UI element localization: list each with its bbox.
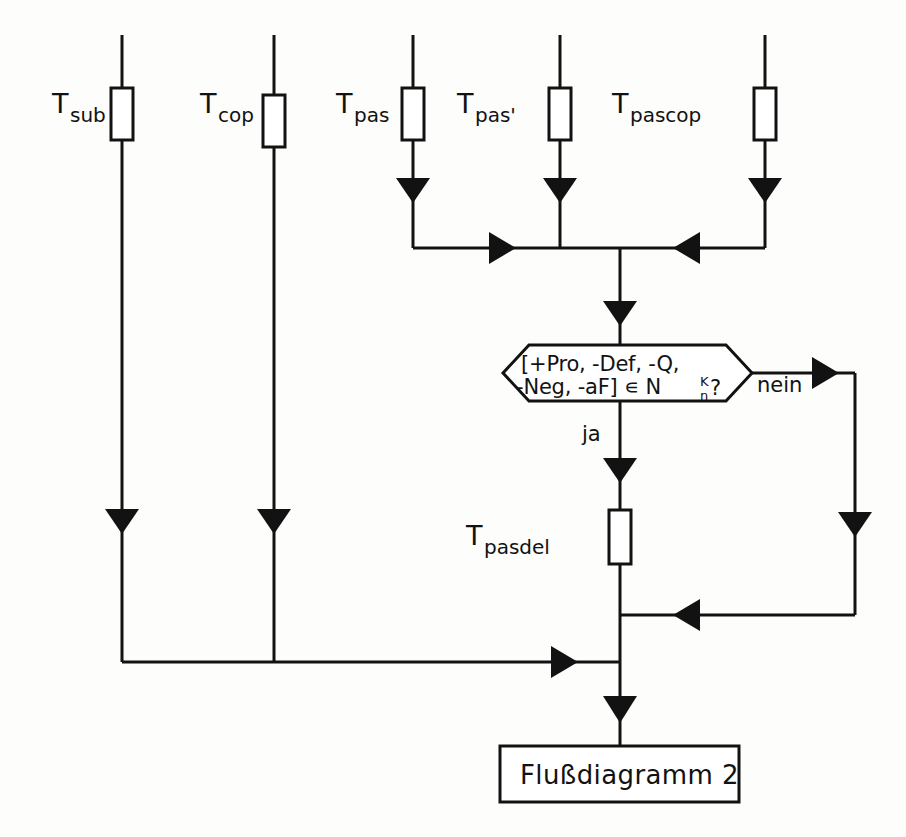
merge-bus-arrow-left-icon [673, 232, 700, 264]
bottom-collector-bus [122, 615, 637, 746]
lane-pas-label-subscript: pas [354, 103, 389, 127]
decision-formula-question-mark: ? [710, 376, 721, 400]
decision-formula-line-2: -Neg, -aF] ∊ N [516, 375, 661, 399]
decision-membership[interactable]: [+Pro, -Def, -Q, -Neg, -aF] ∊ N K n ? [503, 345, 752, 403]
lane-cop-label-base: T [199, 88, 217, 119]
decision-formula-line-1: [+Pro, -Def, -Q, [521, 352, 679, 376]
lane-pas-process-box [402, 88, 424, 140]
bottom-bus-arrow-right-icon [551, 646, 578, 678]
lane-pascop: T pascop [611, 35, 782, 248]
node-pasdel-process-box [609, 510, 631, 564]
node-pasdel-label-base: T [465, 520, 483, 551]
lane-pascop-label-base: T [611, 88, 629, 119]
lane-pascop-process-box [754, 88, 776, 140]
branch-nein-arrow-left-icon [673, 599, 700, 631]
branch-ja-label: ja [581, 422, 601, 446]
lane-sub-label-subscript: sub [70, 103, 106, 127]
lane-cop-label-subscript: cop [218, 103, 254, 127]
spine-to-decision [603, 248, 637, 345]
decision-formula-subscript: n [700, 388, 708, 403]
node-pasdel: T pasdel [465, 510, 631, 564]
branch-nein-label: nein [757, 373, 802, 397]
terminal-flussdiagramm-2[interactable]: Flußdiagramm 2 [500, 746, 739, 802]
merge-bus-arrow-right-icon [489, 232, 516, 264]
lane-sub-process-box [111, 88, 133, 140]
flowchart-svg: T sub T cop T pas T pas' [0, 0, 906, 837]
node-pasdel-label-subscript: pasdel [484, 535, 550, 559]
lane-sub: T sub [51, 35, 139, 662]
lane-sub-label-base: T [51, 88, 69, 119]
lane-cop: T cop [199, 35, 291, 662]
lane-pas-prime: T pas' [456, 35, 577, 248]
lane-cop-process-box [263, 95, 285, 147]
lane-pas-prime-label-subscript: pas' [475, 103, 516, 127]
flowchart-canvas: T sub T cop T pas T pas' [0, 0, 906, 837]
terminal-box-label: Flußdiagramm 2 [520, 760, 739, 790]
branch-ja: ja [581, 401, 637, 615]
decision-formula-superscript: K [700, 374, 709, 389]
branch-nein-arrow-right-icon [812, 357, 839, 389]
lane-pascop-label-subscript: pascop [630, 103, 701, 127]
lane-pas-prime-label-base: T [456, 88, 474, 119]
lane-pas-prime-process-box [549, 88, 571, 140]
merge-bus [413, 232, 765, 264]
lane-pas: T pas [335, 35, 430, 248]
branch-nein-arrow-down-icon [838, 512, 872, 537]
lane-pas-label-base: T [335, 88, 353, 119]
